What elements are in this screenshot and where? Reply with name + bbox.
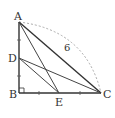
label-b: B [9,88,17,101]
label-a: A [13,10,23,23]
segment-ae [19,22,59,93]
right-angle-marker [19,88,24,93]
label-arc-length: 6 [64,42,70,53]
label-e: E [55,96,63,109]
label-d: D [8,52,17,65]
label-c: C [103,88,111,101]
segment-ac [19,22,101,93]
segment-de [19,58,59,93]
geometry-diagram: A B C D E 6 [0,0,115,118]
